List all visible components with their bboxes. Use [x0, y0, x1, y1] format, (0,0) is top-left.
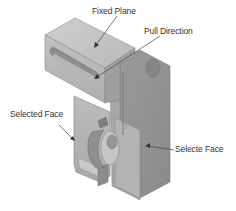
callout-pull-direction: Pull Direction [144, 26, 193, 36]
side-hole [146, 59, 160, 77]
part-drawing [0, 0, 236, 211]
callout-selected-face-left: Selected Face [10, 109, 63, 119]
cad-part-figure: Fixed Plane Pull Direction Selected Face… [0, 0, 236, 211]
leader-selected-face-left [59, 125, 73, 139]
callout-fixed-plane: Fixed Plane [92, 6, 136, 16]
boss-hole [107, 135, 117, 149]
callout-selected-face-right: Selecte Face [175, 144, 223, 154]
